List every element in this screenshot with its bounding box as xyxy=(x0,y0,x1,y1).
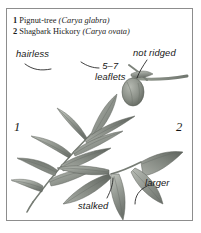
caption-block: 1 Pignut-tree (Carya glabra) 2 Shagbark … xyxy=(13,16,188,37)
caption-number-2: 2 xyxy=(13,27,17,36)
twig-with-bud xyxy=(122,65,187,106)
label-stalked: stalked xyxy=(78,200,108,211)
figure-numeral-2: 2 xyxy=(176,120,182,135)
caption-entry-1: 1 Pignut-tree (Carya glabra) xyxy=(13,16,188,27)
caption-scientific-name-2: (Carya ovata) xyxy=(83,27,130,36)
label-leaflets-count: 5–7 xyxy=(95,61,126,72)
caption-common-name-2: Shagbark Hickory xyxy=(19,27,80,36)
label-hairless: hairless xyxy=(16,48,49,59)
label-leaflets: 5–7 leaflets xyxy=(95,61,126,82)
label-not-ridged: not ridged xyxy=(133,47,176,58)
caption-entry-2: 2 Shagbark Hickory (Carya ovata) xyxy=(13,27,188,38)
label-leaflets-word: leaflets xyxy=(95,72,126,83)
caption-common-name-1: Pignut-tree xyxy=(19,16,56,25)
figure-numeral-1: 1 xyxy=(14,120,20,135)
label-larger: larger xyxy=(145,177,170,188)
caption-scientific-name-1: (Carya glabra) xyxy=(59,16,110,25)
illustration-plate: 1 Pignut-tree (Carya glabra) 2 Shagbark … xyxy=(0,0,201,233)
caption-number-1: 1 xyxy=(13,16,17,25)
leader-hairless xyxy=(25,64,51,70)
